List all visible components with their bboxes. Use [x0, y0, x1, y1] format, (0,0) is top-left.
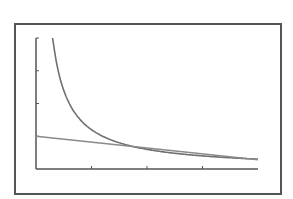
data-series	[36, 38, 258, 160]
axis-ticks	[36, 38, 203, 169]
linear-line	[36, 136, 258, 160]
chart-plot	[0, 0, 293, 199]
